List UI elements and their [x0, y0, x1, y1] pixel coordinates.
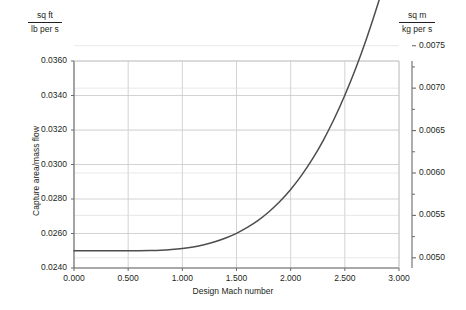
right-axis-tick-label: 0.0070	[419, 82, 463, 92]
right-axis-tick-label: 0.0060	[419, 167, 463, 177]
left-axis-tick-label: 0.0360	[27, 55, 67, 65]
plot-area	[0, 0, 466, 310]
x-axis-tick-label: 2.500	[320, 273, 370, 283]
left-axis-tick-label: 0.0240	[27, 262, 67, 272]
right-axis	[412, 46, 416, 268]
left-axis-tick-label: 0.0320	[27, 124, 67, 134]
x-axis-tick-label: 1.500	[212, 273, 262, 283]
chart-figure: sq ft lb per s sq m kg per s Design Mach…	[0, 0, 466, 310]
right-axis-tick-label: 0.0075	[419, 40, 463, 50]
left-axis-tick-label: 0.0340	[27, 90, 67, 100]
left-axis-tick-label: 0.0280	[27, 193, 67, 203]
y-axis-title: Capture area/mass flow	[31, 71, 41, 271]
x-axis-title: Design Mach number	[0, 286, 466, 296]
x-axis-tick-label: 1.000	[157, 273, 207, 283]
x-axis-tick-label: 0.500	[103, 273, 153, 283]
left-axis-tick-label: 0.0260	[27, 228, 67, 238]
x-axis-tick-label: 0.000	[49, 273, 99, 283]
right-axis-tick-label: 0.0050	[419, 252, 463, 262]
right-axis-tick-label: 0.0055	[419, 209, 463, 219]
x-axis-tick-label: 3.000	[374, 273, 424, 283]
left-axis-tick-label: 0.0300	[27, 159, 67, 169]
x-axis-tick-label: 2.000	[266, 273, 316, 283]
right-axis-tick-label: 0.0065	[419, 125, 463, 135]
